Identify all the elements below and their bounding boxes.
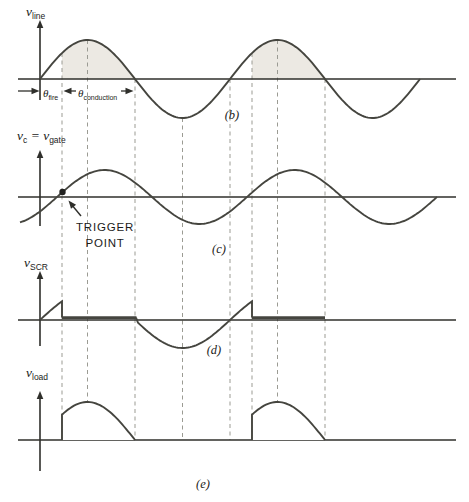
waveform-diagram-canvas: vline(b)vc = vgate(c)vSCR(d)vload(e)θfir… bbox=[0, 0, 469, 502]
trigger-point-label-line2: POINT bbox=[85, 237, 124, 249]
panel-letter-e: (e) bbox=[196, 477, 210, 491]
trigger-point-dot bbox=[59, 189, 65, 195]
panel-letter-d: (d) bbox=[207, 343, 222, 357]
scr-waveform-figure: vline(b)vc = vgate(c)vSCR(d)vload(e)θfir… bbox=[0, 0, 469, 502]
trigger-point-label-line1: TRIGGER bbox=[76, 221, 134, 233]
panel-letter-c: (c) bbox=[212, 242, 226, 256]
panel-letter-b: (b) bbox=[225, 108, 240, 122]
